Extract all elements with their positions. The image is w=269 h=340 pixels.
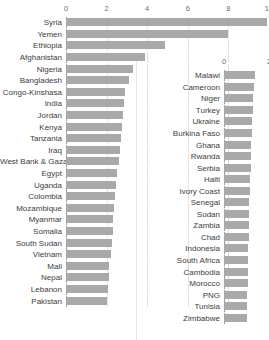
right-chart-bar — [224, 198, 249, 206]
right-chart-category-label: Serbia — [140, 164, 224, 173]
chart-row: Malawi — [140, 70, 269, 82]
chart-row: Sudan — [140, 209, 269, 221]
left-chart-x-axis: 0246810 — [66, 4, 269, 17]
chart-row: PNG — [140, 289, 269, 301]
right-chart-category-label: Morocco — [140, 279, 224, 288]
chart-row: South Africa — [140, 255, 269, 267]
left-chart-bar — [66, 18, 267, 26]
left-chart-category-label: Jordan — [0, 111, 66, 120]
left-chart-bar — [66, 297, 107, 305]
right-chart-category-label: Tunisia — [140, 302, 224, 311]
left-chart-bar — [66, 169, 117, 177]
left-chart-category-label: Yemen — [0, 30, 66, 39]
right-chart-bar — [224, 279, 248, 287]
right-chart-bar — [224, 152, 251, 160]
left-chart-category-label: Iraq — [0, 146, 66, 155]
right-chart-bar-track — [224, 82, 269, 93]
right-chart-bar-track — [224, 267, 269, 278]
left-chart-xtick-5: 10 — [265, 4, 269, 13]
right-chart-category-label: Chad — [140, 233, 224, 242]
right-chart-xtick-1: 2 — [267, 57, 269, 66]
chart-row: Turkey — [140, 105, 269, 117]
right-chart-bar-track — [224, 174, 269, 185]
left-chart-category-label: Colombia — [0, 192, 66, 201]
chart-row: Indonesia — [140, 243, 269, 255]
right-chart-category-label: Zimbabwe — [140, 314, 224, 323]
right-chart-x-axis: 02 — [224, 57, 269, 70]
chart-row: Ivory Coast — [140, 185, 269, 197]
left-chart-bar — [66, 41, 165, 49]
left-chart-bar-track — [66, 40, 269, 51]
right-chart-category-label: Ghana — [140, 141, 224, 150]
left-chart-bar — [66, 181, 116, 189]
right-chart-category-label: Cambodia — [140, 268, 224, 277]
right-chart-category-label: Senegal — [140, 198, 224, 207]
right-chart-category-label: Ukraine — [140, 117, 224, 126]
right-chart-bar-track — [224, 232, 269, 243]
right-chart-category-label: Zambia — [140, 221, 224, 230]
right-chart-category-label: Niger — [140, 94, 224, 103]
left-chart-gridline — [228, 29, 229, 40]
left-chart-gridline — [107, 296, 108, 307]
chart-canvas: 0246810 SyriaYemenEthiopiaAfghanistanNig… — [0, 0, 269, 340]
right-chart-bar — [224, 244, 248, 252]
chart-row: Cambodia — [140, 266, 269, 278]
right-chart-bar — [224, 210, 249, 218]
right-chart-bar-track — [224, 209, 269, 220]
right-chart-bar-track — [224, 197, 269, 208]
right-chart-bar — [224, 291, 247, 299]
right-chart-bar — [224, 221, 249, 229]
left-chart-bar — [66, 88, 125, 96]
right-chart-bar — [224, 187, 250, 195]
left-chart-category-label: Vietnam — [0, 250, 66, 259]
right-chart-category-label: Haiti — [140, 175, 224, 184]
chart-row: Serbia — [140, 162, 269, 174]
left-chart-category-label: Uganda — [0, 181, 66, 190]
left-chart-bar — [66, 262, 109, 270]
left-chart-category-label: Syria — [0, 18, 66, 27]
left-chart-bar — [66, 76, 129, 84]
chart-row: Morocco — [140, 278, 269, 290]
right-chart-category-label: Ivory Coast — [140, 187, 224, 196]
left-chart-bar — [66, 204, 114, 212]
left-chart-bar — [66, 53, 145, 61]
right-chart-category-label: Turkey — [140, 106, 224, 115]
right-chart-category-label: Rwanda — [140, 152, 224, 161]
chart-row: Cameroon — [140, 82, 269, 94]
right-chart-bar-track — [224, 301, 269, 312]
right-chart-bar — [224, 94, 253, 102]
right-chart-bar-track — [224, 243, 269, 254]
left-chart-bar — [66, 239, 112, 247]
right-chart-category-label: Sudan — [140, 210, 224, 219]
left-chart-bar — [66, 30, 228, 38]
right-chart-bar-track — [224, 163, 269, 174]
left-chart-bar — [66, 157, 119, 165]
left-chart-category-label: Mozambique — [0, 204, 66, 213]
left-chart-category-label: West Bank & Gaza — [0, 157, 66, 166]
left-chart-category-label: Pakistan — [0, 297, 66, 306]
right-chart-rows: MalawiCameroonNigerTurkeyUkraineBurkina … — [140, 70, 269, 324]
right-chart-bar — [224, 129, 252, 137]
right-chart-bar — [224, 117, 252, 125]
left-chart-gridline — [188, 40, 189, 51]
right-chart-category-label: Burkina Faso — [140, 129, 224, 138]
left-chart-bar — [66, 250, 111, 258]
right-chart-bar-track — [224, 278, 269, 289]
left-chart-category-label: Nigeria — [0, 65, 66, 74]
left-chart-category-label: Egypt — [0, 169, 66, 178]
left-chart-bar — [66, 123, 122, 131]
right-chart-bar — [224, 314, 247, 322]
right-chart-bar-track — [224, 220, 269, 231]
left-chart-category-label: Ethiopia — [0, 41, 66, 50]
right-chart-bar-track — [224, 255, 269, 266]
chart-row: Zimbabwe — [140, 312, 269, 324]
right-chart-bar-track — [224, 93, 269, 104]
chart-row: Ethiopia — [0, 40, 269, 52]
right-chart-bar — [224, 302, 247, 310]
right-chart-bar — [224, 164, 251, 172]
right-chart-bar-track — [224, 70, 269, 81]
right-chart-bar-track — [224, 313, 269, 324]
left-chart-category-label: India — [0, 99, 66, 108]
left-chart-xtick-1: 2 — [105, 4, 109, 13]
left-chart-bar — [66, 285, 108, 293]
